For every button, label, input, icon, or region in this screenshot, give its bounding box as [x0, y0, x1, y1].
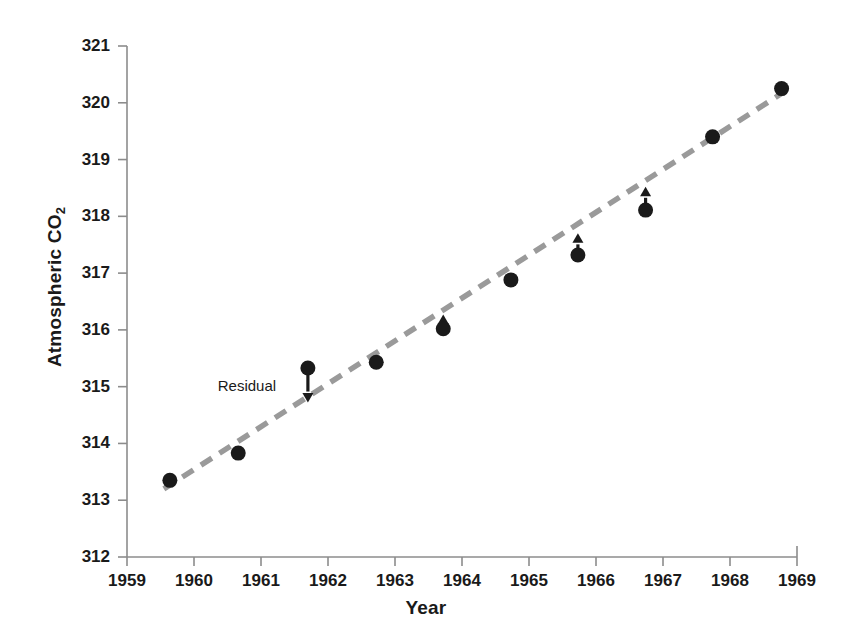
x-axis-tick-label: 1966: [561, 571, 631, 591]
y-axis-tick-label: 314: [54, 433, 110, 453]
data-point[interactable]: [300, 360, 315, 375]
y-axis-tick-label: 321: [54, 36, 110, 56]
x-axis-title: Year: [0, 597, 852, 619]
x-axis-tick-label: 1967: [628, 571, 698, 591]
y-axis-title-text: Atmospheric CO: [44, 214, 65, 367]
data-point[interactable]: [369, 355, 384, 370]
y-axis-tick-label: 315: [54, 377, 110, 397]
data-point[interactable]: [638, 203, 653, 218]
y-axis-tick-label: 313: [54, 490, 110, 510]
x-axis-tick-label: 1962: [293, 571, 363, 591]
y-axis-tick-label: 312: [54, 547, 110, 567]
x-axis-tick-label: 1969: [762, 571, 832, 591]
trendline: [164, 86, 794, 489]
x-axis-tick-label: 1964: [427, 571, 497, 591]
data-point[interactable]: [231, 446, 246, 461]
annotation-arrow-head: [640, 187, 651, 197]
y-axis-tick-label: 317: [54, 263, 110, 283]
data-point[interactable]: [705, 129, 720, 144]
residual-annotation-label: Residual: [218, 377, 276, 394]
annotation-arrows-layer: [302, 187, 651, 403]
annotation-arrow-head: [572, 233, 583, 243]
trendline-layer: [164, 86, 794, 489]
x-axis-tick-label: 1961: [226, 571, 296, 591]
data-point[interactable]: [774, 81, 789, 96]
y-axis-tick-label: 320: [54, 93, 110, 113]
x-axis-tick-label: 1960: [159, 571, 229, 591]
axes-layer: [118, 46, 797, 566]
x-axis-tick-label: 1965: [494, 571, 564, 591]
data-point[interactable]: [503, 272, 518, 287]
data-point[interactable]: [162, 473, 177, 488]
x-axis-tick-label: 1968: [695, 571, 765, 591]
y-axis-tick-label: 318: [54, 206, 110, 226]
data-point[interactable]: [570, 247, 585, 262]
chart-canvas: [0, 0, 852, 636]
y-axis-tick-label: 319: [54, 150, 110, 170]
y-axis-tick-label: 316: [54, 320, 110, 340]
x-axis-tick-label: 1963: [360, 571, 430, 591]
co2-residual-scatter-chart: Atmospheric CO2 Year 3123133143153163173…: [0, 0, 852, 636]
x-axis-tick-label: 1959: [92, 571, 162, 591]
data-point[interactable]: [436, 321, 451, 336]
